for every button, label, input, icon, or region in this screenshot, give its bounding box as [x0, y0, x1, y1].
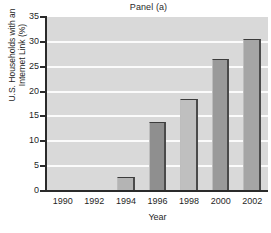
y-axis-tick-label: 5	[1, 160, 39, 170]
x-axis-tick-label: 1994	[116, 196, 136, 206]
x-axis-tick-label: 2000	[211, 196, 231, 206]
x-axis-tick-label: 1996	[147, 196, 167, 206]
bar-1998	[180, 99, 198, 191]
y-axis-tick	[40, 91, 46, 93]
x-axis-tick-labels: 1990199219941996199820002002	[47, 196, 268, 210]
bar-1994	[117, 177, 135, 191]
y-axis-tick-label: 0	[1, 185, 39, 195]
y-axis-tick	[40, 16, 46, 18]
y-axis-tick-label: 35	[1, 11, 39, 21]
y-axis-tick	[40, 41, 46, 43]
bar-2000	[212, 59, 230, 191]
y-axis-tick-label: 25	[1, 61, 39, 71]
x-axis-tick-label: 2002	[242, 196, 262, 206]
y-axis-tick-label: 15	[1, 110, 39, 120]
y-axis-tick	[40, 165, 46, 167]
y-axis-tick	[40, 140, 46, 142]
x-axis-tick-label: 1992	[84, 196, 104, 206]
bar-1996	[149, 122, 167, 191]
y-axis-tick	[40, 115, 46, 117]
chart-figure: Panel (a) U.S. Households with an Intern…	[0, 0, 271, 233]
gridline	[47, 41, 268, 43]
gridline	[47, 115, 268, 117]
x-axis-tick-label: 1998	[179, 196, 199, 206]
y-axis-tick-label: 20	[1, 86, 39, 96]
x-axis-spine	[45, 190, 268, 192]
y-axis-tick	[40, 190, 46, 192]
gridline	[47, 91, 268, 93]
gridline	[47, 66, 268, 68]
bar-2002	[243, 39, 261, 191]
chart-title: Panel (a)	[0, 2, 271, 12]
x-axis-label: Year	[47, 212, 268, 222]
x-axis-tick-label: 1990	[53, 196, 73, 206]
y-axis-tick	[40, 66, 46, 68]
y-axis-tick-label: 10	[1, 135, 39, 145]
y-axis-tick-labels: 05101520253035	[0, 0, 39, 233]
plot-area	[47, 17, 268, 191]
y-axis-tick-label: 30	[1, 36, 39, 46]
